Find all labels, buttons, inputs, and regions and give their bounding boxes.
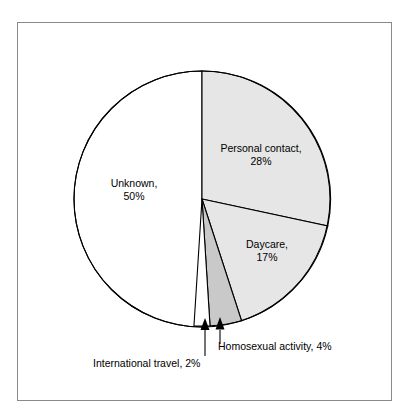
slice-label-unknown: Unknown, 50% bbox=[89, 177, 179, 203]
slice-label-daycare: Daycare, 17% bbox=[221, 238, 313, 264]
slice-label-unknown-name: Unknown, bbox=[89, 177, 179, 190]
callout-label-international-travel: International travel, 2% bbox=[93, 357, 200, 370]
callout-label-homosexual-activity: Homosexual activity, 4% bbox=[218, 340, 332, 353]
slice-label-daycare-value: 17% bbox=[221, 251, 313, 264]
pie-chart-svg bbox=[0, 0, 408, 412]
slice-label-unknown-value: 50% bbox=[89, 190, 179, 203]
slice-label-daycare-name: Daycare, bbox=[221, 238, 313, 251]
slice-label-personal-contact: Personal contact, 28% bbox=[196, 142, 326, 168]
slice-label-personal-contact-value: 28% bbox=[196, 155, 326, 168]
slice-label-personal-contact-name: Personal contact, bbox=[196, 142, 326, 155]
pie-chart-figure: Unknown, 50% Personal contact, 28% Dayca… bbox=[0, 0, 408, 412]
